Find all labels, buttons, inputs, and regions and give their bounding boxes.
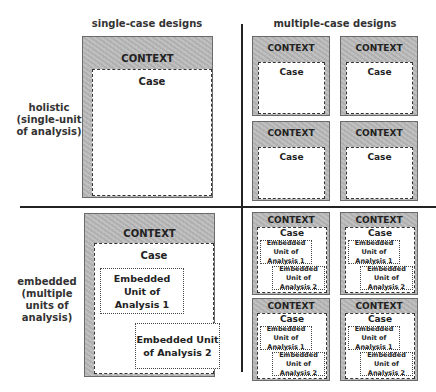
context-box-multiple-holistic-1: CONTEXT Case	[252, 36, 330, 116]
context-label: CONTEXT	[253, 301, 329, 311]
case-box: Case Embedded Unit of Analysis 1 Embedde…	[94, 243, 214, 374]
embedded-unit-2: Embedded Unit of Analysis 2	[272, 352, 325, 376]
case-box: Case	[346, 147, 413, 199]
case-label: Case	[346, 228, 414, 238]
embedded-unit-1: Embedded Unit of Analysis 1	[348, 240, 400, 264]
context-label: CONTEXT	[341, 301, 417, 311]
row-label-line: (multiple	[14, 288, 80, 300]
case-box: Case	[258, 62, 325, 114]
context-label: CONTEXT	[253, 43, 329, 53]
context-label: CONTEXT	[341, 215, 417, 225]
column-header-single-case: single-case designs	[82, 18, 212, 29]
row-label-line: holistic	[16, 102, 82, 114]
context-box-multiple-holistic-2: CONTEXT Case	[340, 36, 418, 116]
row-label-holistic: holistic (single-unit of analysis)	[16, 102, 82, 138]
case-label: Case	[258, 228, 326, 238]
embedded-unit-1: Embedded Unit of Analysis 1	[100, 268, 184, 314]
context-label: CONTEXT	[341, 128, 417, 138]
case-box: Case	[258, 147, 325, 199]
vertical-divider	[241, 24, 243, 372]
context-box-multiple-embedded-3: CONTEXT Case Embedded Unit of Analysis 1…	[252, 298, 330, 381]
horizontal-divider	[20, 206, 436, 208]
context-box-single-embedded: CONTEXT Case Embedded Unit of Analysis 1…	[84, 213, 215, 377]
case-label: Case	[259, 152, 324, 162]
context-box-multiple-embedded-4: CONTEXT Case Embedded Unit of Analysis 1…	[340, 298, 418, 381]
case-label: Case	[347, 67, 412, 77]
column-header-multiple-case: multiple-case designs	[252, 18, 418, 29]
embedded-unit-2: Embedded Unit of Analysis 2	[135, 323, 220, 369]
case-label: Case	[259, 67, 324, 77]
case-box: Case Embedded Unit of Analysis 1 Embedde…	[345, 227, 415, 293]
embedded-unit-2: Embedded Unit of Analysis 2	[360, 352, 413, 376]
context-box-single-holistic: CONTEXT Case	[82, 36, 213, 198]
case-box: Case	[346, 62, 413, 114]
context-label: CONTEXT	[253, 215, 329, 225]
context-label: CONTEXT	[83, 53, 212, 64]
case-label: Case	[95, 250, 213, 261]
embedded-unit-1: Embedded Unit of Analysis 1	[260, 240, 312, 264]
context-label: CONTEXT	[253, 128, 329, 138]
embedded-unit-1: Embedded Unit of Analysis 1	[348, 326, 400, 350]
context-label: CONTEXT	[341, 43, 417, 53]
case-label: Case	[93, 76, 211, 87]
row-label-line: (single-unit	[16, 114, 82, 126]
embedded-unit-2: Embedded Unit of Analysis 2	[360, 266, 413, 290]
row-label-embedded: embedded (multiple units of analysis)	[14, 276, 80, 324]
context-label: CONTEXT	[85, 228, 214, 239]
context-box-multiple-holistic-4: CONTEXT Case	[340, 121, 418, 201]
row-label-line: units of	[14, 300, 80, 312]
case-label: Case	[347, 152, 412, 162]
context-box-multiple-embedded-2: CONTEXT Case Embedded Unit of Analysis 1…	[340, 212, 418, 295]
case-box: Case Embedded Unit of Analysis 1 Embedde…	[345, 313, 415, 379]
embedded-unit-1: Embedded Unit of Analysis 1	[260, 326, 312, 350]
context-box-multiple-holistic-3: CONTEXT Case	[252, 121, 330, 201]
case-box: Case	[92, 69, 212, 196]
case-label: Case	[258, 314, 326, 324]
case-box: Case Embedded Unit of Analysis 1 Embedde…	[257, 227, 327, 293]
case-label: Case	[346, 314, 414, 324]
context-box-multiple-embedded-1: CONTEXT Case Embedded Unit of Analysis 1…	[252, 212, 330, 295]
row-label-line: of analysis)	[16, 126, 82, 138]
case-box: Case Embedded Unit of Analysis 1 Embedde…	[257, 313, 327, 379]
row-label-line: analysis)	[14, 312, 80, 324]
embedded-unit-2: Embedded Unit of Analysis 2	[272, 266, 325, 290]
row-label-line: embedded	[14, 276, 80, 288]
